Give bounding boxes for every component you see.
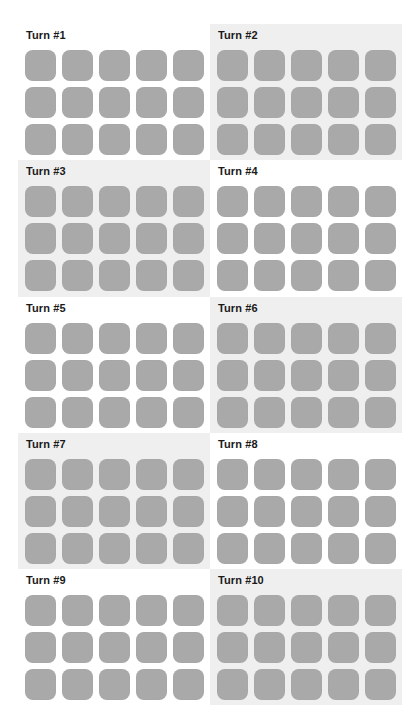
tile[interactable] — [25, 595, 56, 626]
tile[interactable] — [25, 397, 56, 428]
tile[interactable] — [291, 459, 322, 490]
tile[interactable] — [254, 496, 285, 527]
tile[interactable] — [62, 595, 93, 626]
tile[interactable] — [173, 632, 204, 663]
tile[interactable] — [291, 50, 322, 81]
tile[interactable] — [136, 632, 167, 663]
tile[interactable] — [25, 50, 56, 81]
tile[interactable] — [173, 360, 204, 391]
tile[interactable] — [328, 260, 359, 291]
tile[interactable] — [328, 632, 359, 663]
tile[interactable] — [254, 260, 285, 291]
tile[interactable] — [136, 496, 167, 527]
tile[interactable] — [62, 323, 93, 354]
tile[interactable] — [217, 397, 248, 428]
tile[interactable] — [217, 260, 248, 291]
tile[interactable] — [99, 669, 130, 700]
tile[interactable] — [328, 50, 359, 81]
tile[interactable] — [365, 397, 396, 428]
tile[interactable] — [62, 124, 93, 155]
tile[interactable] — [328, 186, 359, 217]
tile[interactable] — [62, 186, 93, 217]
tile[interactable] — [62, 459, 93, 490]
tile[interactable] — [291, 397, 322, 428]
tile[interactable] — [217, 124, 248, 155]
tile[interactable] — [291, 186, 322, 217]
tile[interactable] — [173, 397, 204, 428]
tile[interactable] — [62, 496, 93, 527]
tile[interactable] — [254, 186, 285, 217]
tile[interactable] — [365, 87, 396, 118]
tile[interactable] — [99, 459, 130, 490]
tile[interactable] — [99, 223, 130, 254]
tile[interactable] — [328, 459, 359, 490]
tile[interactable] — [291, 223, 322, 254]
tile[interactable] — [254, 397, 285, 428]
tile[interactable] — [25, 632, 56, 663]
tile[interactable] — [365, 186, 396, 217]
tile[interactable] — [365, 533, 396, 564]
tile[interactable] — [62, 533, 93, 564]
tile[interactable] — [99, 260, 130, 291]
tile[interactable] — [99, 323, 130, 354]
tile[interactable] — [254, 595, 285, 626]
tile[interactable] — [62, 397, 93, 428]
tile[interactable] — [136, 223, 167, 254]
tile[interactable] — [173, 87, 204, 118]
tile[interactable] — [291, 360, 322, 391]
tile[interactable] — [173, 496, 204, 527]
tile[interactable] — [328, 223, 359, 254]
tile[interactable] — [254, 533, 285, 564]
tile[interactable] — [365, 459, 396, 490]
tile[interactable] — [136, 459, 167, 490]
tile[interactable] — [99, 632, 130, 663]
tile[interactable] — [365, 323, 396, 354]
tile[interactable] — [173, 459, 204, 490]
tile[interactable] — [217, 50, 248, 81]
tile[interactable] — [365, 50, 396, 81]
tile[interactable] — [173, 260, 204, 291]
tile[interactable] — [25, 360, 56, 391]
tile[interactable] — [291, 632, 322, 663]
tile[interactable] — [62, 360, 93, 391]
tile[interactable] — [99, 533, 130, 564]
tile[interactable] — [25, 124, 56, 155]
tile[interactable] — [254, 323, 285, 354]
tile[interactable] — [136, 360, 167, 391]
tile[interactable] — [25, 260, 56, 291]
tile[interactable] — [217, 186, 248, 217]
tile[interactable] — [173, 669, 204, 700]
tile[interactable] — [25, 223, 56, 254]
tile[interactable] — [136, 397, 167, 428]
tile[interactable] — [99, 496, 130, 527]
tile[interactable] — [173, 323, 204, 354]
tile[interactable] — [136, 87, 167, 118]
tile[interactable] — [365, 223, 396, 254]
tile[interactable] — [365, 595, 396, 626]
tile[interactable] — [173, 186, 204, 217]
tile[interactable] — [25, 496, 56, 527]
tile[interactable] — [328, 360, 359, 391]
tile[interactable] — [328, 323, 359, 354]
tile[interactable] — [99, 595, 130, 626]
tile[interactable] — [217, 360, 248, 391]
tile[interactable] — [328, 397, 359, 428]
tile[interactable] — [217, 87, 248, 118]
tile[interactable] — [291, 260, 322, 291]
tile[interactable] — [25, 533, 56, 564]
tile[interactable] — [328, 595, 359, 626]
tile[interactable] — [217, 459, 248, 490]
tile[interactable] — [62, 669, 93, 700]
tile[interactable] — [328, 669, 359, 700]
tile[interactable] — [291, 669, 322, 700]
tile[interactable] — [365, 260, 396, 291]
tile[interactable] — [62, 260, 93, 291]
tile[interactable] — [254, 50, 285, 81]
tile[interactable] — [291, 533, 322, 564]
tile[interactable] — [99, 50, 130, 81]
tile[interactable] — [136, 260, 167, 291]
tile[interactable] — [328, 124, 359, 155]
tile[interactable] — [136, 533, 167, 564]
tile[interactable] — [25, 87, 56, 118]
tile[interactable] — [291, 496, 322, 527]
